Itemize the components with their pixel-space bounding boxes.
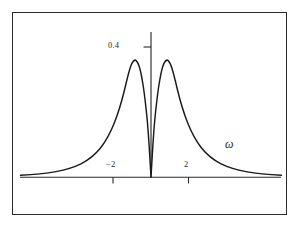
x-axis-name-omega: ω [225,138,233,150]
plot-canvas [0,0,301,232]
x-axis-tick-label-pos2: 2 [184,160,188,169]
y-axis-tick-label-0.4: 0.4 [108,41,119,50]
x-axis-tick-label-neg2: −2 [106,160,115,169]
figure-root: 0.4 −2 2 ω [0,0,301,232]
